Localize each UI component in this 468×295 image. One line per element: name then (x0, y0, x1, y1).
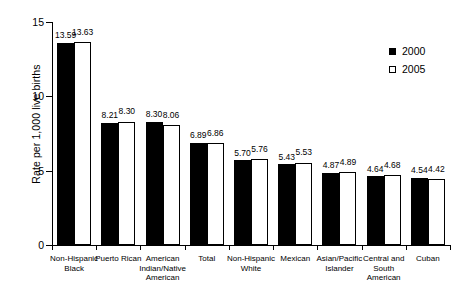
bar-2005 (295, 163, 312, 245)
legend-item: 2005 (389, 62, 425, 77)
y-axis-tick-label: 5 (0, 166, 44, 177)
filled-square-icon (389, 48, 396, 55)
bar-chart: Rate per 1,000 live births 151050 13.591… (0, 0, 468, 295)
legend-item: 2000 (389, 44, 425, 59)
y-axis-tick-label: 10 (0, 91, 44, 102)
x-axis-tick (406, 245, 407, 250)
bar-group: 4.874.89 (322, 22, 356, 245)
bar-group: 8.308.06 (146, 22, 180, 245)
x-axis-tick (185, 245, 186, 250)
bar-2005 (251, 159, 268, 245)
bar-2000 (411, 178, 428, 245)
bar-2000 (146, 122, 163, 245)
bar-group: 6.896.86 (190, 22, 224, 245)
x-axis-tick (52, 245, 53, 250)
x-axis-tick (317, 245, 318, 250)
bar-2000 (101, 123, 118, 245)
x-axis-tick (229, 245, 230, 250)
bar-2000 (234, 160, 251, 245)
bar-2005 (163, 125, 180, 245)
bar-value-label: 8.06 (158, 111, 185, 120)
bar-value-label: 5.76 (246, 145, 273, 154)
bar-2005 (207, 143, 224, 245)
bar-2005 (339, 172, 356, 245)
legend-item-label: 2005 (402, 64, 425, 75)
bar-2000 (278, 164, 295, 245)
x-axis-tick (450, 245, 451, 250)
y-axis-tick-label: 15 (0, 17, 44, 28)
x-axis-line (52, 245, 450, 246)
bar-2005 (384, 175, 401, 245)
bar-value-label: 13.63 (69, 28, 96, 37)
legend-item-label: 2000 (402, 46, 425, 57)
bar-2005 (118, 122, 135, 245)
chart-legend: 20002005 (389, 44, 425, 80)
hollow-square-icon (389, 66, 396, 73)
category-label: Cuban (400, 254, 456, 264)
x-axis-tick (362, 245, 363, 250)
bar-2005 (428, 179, 445, 245)
bar-value-label: 4.68 (379, 161, 406, 170)
bar-value-label: 4.42 (423, 165, 450, 174)
bar-group: 8.218.30 (101, 22, 135, 245)
bar-2000 (367, 176, 384, 245)
bar-group: 13.5913.63 (57, 22, 91, 245)
bar-group: 5.705.76 (234, 22, 268, 245)
x-axis-tick (140, 245, 141, 250)
bar-value-label: 5.53 (290, 148, 317, 157)
x-axis-tick (96, 245, 97, 250)
bar-value-label: 4.89 (334, 158, 361, 167)
y-axis-title: Rate per 1,000 live births (30, 24, 42, 224)
bar-group: 5.435.53 (278, 22, 312, 245)
bar-2005 (74, 42, 91, 245)
bar-2000 (322, 173, 339, 245)
x-axis-tick (273, 245, 274, 250)
bar-2000 (57, 43, 74, 245)
bar-2000 (190, 143, 207, 245)
bar-value-label: 8.30 (113, 107, 140, 116)
bar-value-label: 6.86 (202, 129, 229, 138)
y-axis-tick-label: 0 (0, 240, 44, 251)
